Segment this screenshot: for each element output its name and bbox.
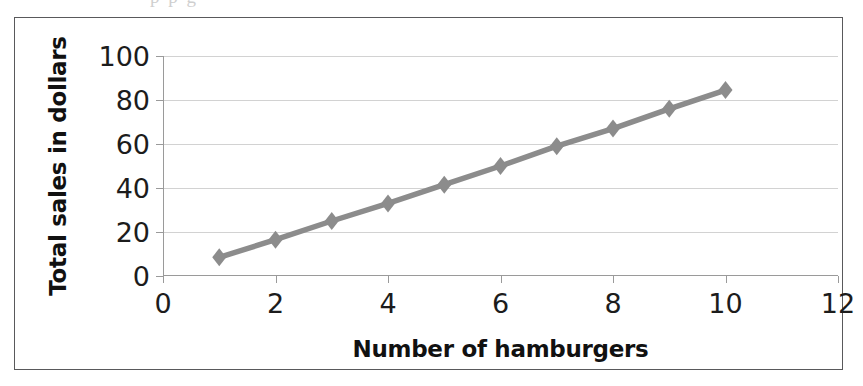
plot-area: 020406080100 024681012 xyxy=(163,56,838,276)
data-point-marker xyxy=(268,231,282,249)
y-tick-label: 60 xyxy=(116,129,150,160)
x-axis-title-label: Number of hamburgers xyxy=(353,336,649,362)
data-point-marker xyxy=(325,212,339,230)
y-tick-mark xyxy=(156,232,163,233)
y-tick-mark xyxy=(156,188,163,189)
scan-artifact-glyphs: p p g xyxy=(150,0,198,8)
x-tick-mark xyxy=(726,276,727,283)
y-axis-title: Total sales in dollars xyxy=(41,56,75,276)
data-point-marker xyxy=(381,194,395,212)
x-tick-mark xyxy=(613,276,614,283)
data-point-marker xyxy=(493,157,507,175)
y-tick-mark xyxy=(156,144,163,145)
x-tick-label: 12 xyxy=(821,288,855,319)
data-point-marker xyxy=(718,81,732,99)
x-tick-mark xyxy=(276,276,277,283)
data-point-marker xyxy=(550,137,564,155)
y-tick-label: 100 xyxy=(98,41,150,72)
data-series-line xyxy=(163,56,838,276)
x-tick-label: 4 xyxy=(379,288,396,319)
data-point-marker xyxy=(606,120,620,138)
y-tick-label: 20 xyxy=(116,217,150,248)
y-tick-mark xyxy=(156,100,163,101)
x-axis-title: Number of hamburgers xyxy=(163,336,838,362)
x-tick-mark xyxy=(501,276,502,283)
x-tick-mark xyxy=(838,276,839,283)
data-point-marker xyxy=(437,176,451,194)
y-tick-mark xyxy=(156,56,163,57)
y-axis-title-label: Total sales in dollars xyxy=(45,36,71,295)
y-tick-mark xyxy=(156,276,163,277)
x-tick-mark xyxy=(388,276,389,283)
x-tick-label: 6 xyxy=(492,288,509,319)
x-tick-label: 0 xyxy=(154,288,171,319)
x-tick-label: 2 xyxy=(267,288,284,319)
x-tick-label: 8 xyxy=(604,288,621,319)
y-tick-label: 80 xyxy=(116,85,150,116)
scan-artifact-top-text: p p g xyxy=(0,0,863,13)
y-tick-label: 0 xyxy=(133,261,150,292)
series-polyline xyxy=(219,90,725,257)
data-point-marker xyxy=(212,248,226,266)
y-tick-label: 40 xyxy=(116,173,150,204)
chart-figure-frame: Total sales in dollars 020406080100 0246… xyxy=(14,17,843,370)
x-tick-mark xyxy=(163,276,164,283)
x-tick-label: 10 xyxy=(708,288,742,319)
data-point-marker xyxy=(662,100,676,118)
